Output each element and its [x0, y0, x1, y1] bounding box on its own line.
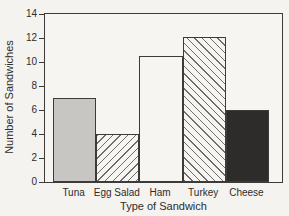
y-tick-label: 10: [11, 57, 37, 67]
bar-tuna: [53, 98, 96, 182]
y-tick-mark: [39, 182, 44, 183]
y-tick-mark: [39, 86, 44, 87]
y-tick-label: 2: [11, 153, 37, 163]
y-tick-mark: [39, 158, 44, 159]
bar-egg-salad: [96, 134, 139, 182]
x-axis-title: Type of Sandwich: [44, 200, 283, 212]
y-tick-mark: [39, 134, 44, 135]
y-tick-mark: [39, 38, 44, 39]
x-tick-label-cheese: Cheese: [229, 187, 263, 198]
y-tick-label: 4: [11, 129, 37, 139]
y-tick-label: 0: [11, 177, 37, 187]
x-tick-label-turkey: Turkey: [188, 187, 218, 198]
bar-chart-figure: Number of Sandwiches Type of Sandwich 02…: [0, 0, 289, 216]
bar-cheese: [226, 110, 269, 182]
y-tick-label: 14: [11, 9, 37, 19]
y-tick-label: 12: [11, 33, 37, 43]
y-tick-label: 6: [11, 105, 37, 115]
bar-ham: [139, 56, 182, 182]
y-tick-mark: [39, 110, 44, 111]
y-tick-mark: [39, 62, 44, 63]
plot-area: [44, 13, 283, 183]
y-tick-label: 8: [11, 81, 37, 91]
x-tick-label-egg-salad: Egg Salad: [94, 187, 140, 198]
x-tick-label-ham: Ham: [149, 187, 170, 198]
x-tick-label-tuna: Tuna: [62, 187, 84, 198]
bar-turkey: [183, 37, 226, 182]
y-tick-mark: [39, 14, 44, 15]
